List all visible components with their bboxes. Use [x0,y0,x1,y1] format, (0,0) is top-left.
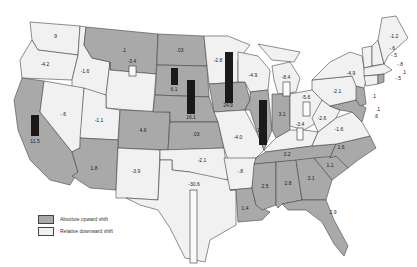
map-legend: Absolute upward shift Relative downward … [38,213,113,237]
bar-ca [31,115,39,136]
state-ct [364,75,378,86]
label-ok: -2.1 [198,157,207,163]
legend-swatch-downward [38,227,54,236]
label-vt: -.6 [389,45,395,51]
label-wa: .9 [53,33,57,39]
bar-ia [225,52,233,103]
legend-item-downward: Relative downward shift [38,225,113,237]
state-ri [378,74,384,84]
label-nd: .03 [177,47,184,53]
label-il: 13.1 [257,127,267,133]
label-ks: .03 [193,131,200,137]
label-mi: -8.4 [282,74,291,80]
bar-sd [171,68,178,85]
state-vt [362,46,372,68]
bar-ky [297,128,303,140]
state-nm [116,148,160,200]
label-co: 4.6 [140,127,147,133]
label-ia: 24.9 [223,102,233,108]
label-nm: -3.9 [132,168,141,174]
label-in: 3.1 [279,111,286,117]
label-ma: -.8 [397,61,403,67]
label-de: .1 [376,106,380,112]
label-sc: 1.1 [327,162,334,168]
label-ky: -3.4 [296,121,305,127]
label-wy: -3.4 [128,58,137,64]
label-id: -1.6 [81,68,90,74]
label-or: -4.2 [41,61,50,67]
label-nh: -.5 [391,52,397,58]
state-fl [282,200,348,256]
state-ar [224,158,256,190]
label-oh: -5.6 [302,94,311,100]
label-tn: 3.2 [284,151,291,157]
label-nv: -.6 [60,111,66,117]
label-al: 2.8 [285,180,292,186]
label-md: .6 [374,113,378,119]
label-ms: 2.5 [262,183,269,189]
label-ca: 11.5 [30,138,40,144]
label-tx: -30.6 [188,181,200,187]
label-ri: .1 [402,69,406,75]
label-wv: -2.6 [318,115,327,121]
legend-swatch-upward [38,215,54,224]
label-ne: 16.1 [186,114,196,120]
bar-ne [187,80,195,114]
label-va: -1.6 [335,126,344,132]
label-la: 1.4 [242,205,249,211]
label-mt: .1 [122,47,126,53]
label-wi: -4.9 [249,72,258,78]
label-az: 1.8 [91,165,98,171]
legend-item-upward: Absolute upward shift [38,213,113,225]
bar-il [259,100,267,145]
bar-oh [303,102,310,116]
label-ga: 3.1 [308,175,315,181]
label-nj: .1 [372,93,376,99]
bar-wy [129,66,136,76]
label-fl: 2.9 [330,209,337,215]
label-ny: -4.9 [347,70,356,76]
label-nc: 1.6 [338,144,345,150]
label-mn: -2.8 [214,57,223,63]
state-sd [155,65,209,97]
label-sd: 6.1 [171,86,178,92]
label-ar: -.8 [237,168,243,174]
bar-tx [190,190,197,263]
label-ut: -1.1 [95,117,104,123]
label-me: -1.2 [390,33,399,39]
label-mo: -4.0 [234,134,243,140]
label-ct: -.5 [395,75,401,81]
legend-label-downward: Relative downward shift [60,228,113,234]
label-pa: -2.1 [333,88,342,94]
legend-label-upward: Absolute upward shift [60,216,108,222]
bar-mi [283,82,290,96]
